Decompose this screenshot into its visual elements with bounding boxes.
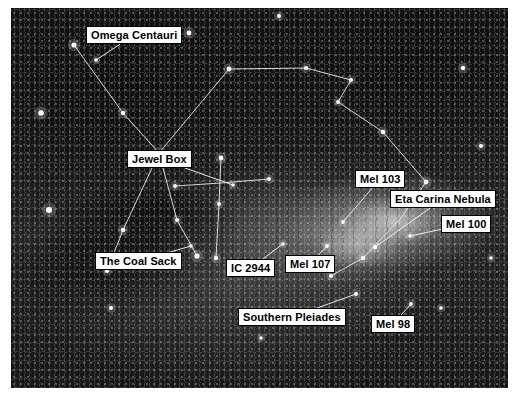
label-southern-pleiades: Southern Pleiades	[238, 308, 346, 326]
label-text: Jewel Box	[132, 153, 187, 165]
label-mel-103: Mel 103	[355, 170, 405, 188]
label-mel-98: Mel 98	[371, 315, 415, 333]
constellation-line-centaurus-leg	[159, 153, 197, 256]
constellation-line-crux-vertical	[216, 158, 221, 258]
label-mel-107: Mel 107	[285, 255, 335, 273]
label-text: Mel 98	[376, 318, 410, 330]
label-jewel-box: Jewel Box	[127, 150, 192, 168]
label-ic-2944: IC 2944	[226, 259, 275, 277]
label-text: The Coal Sack	[100, 255, 177, 267]
label-omega-centauri: Omega Centauri	[86, 26, 182, 44]
label-eta-carina-nebula: Eta Carina Nebula	[390, 190, 496, 208]
label-text: Mel 100	[446, 218, 486, 230]
leader-line-jewel-box	[185, 168, 233, 185]
label-text: Mel 107	[290, 258, 330, 270]
leader-line-eta-carina-nebula	[375, 208, 430, 247]
label-text: Eta Carina Nebula	[395, 193, 491, 205]
leader-line-mel-103	[343, 188, 372, 222]
leader-line-omega-centauri	[96, 44, 120, 60]
label-text: Mel 103	[360, 173, 400, 185]
label-text: Southern Pleiades	[243, 311, 341, 323]
leader-line-mel-107	[319, 246, 328, 255]
leader-line-ic-2944	[263, 244, 283, 259]
leader-line-southern-pleiades	[317, 294, 356, 308]
label-mel-100: Mel 100	[441, 215, 491, 233]
constellation-line-crux-horizontal	[175, 179, 269, 186]
astrophoto-page: Omega CentauriJewel BoxMel 103Eta Carina…	[0, 0, 518, 403]
leader-line-mel-100	[410, 229, 441, 236]
label-the-coal-sack: The Coal Sack	[95, 252, 182, 270]
label-text: IC 2944	[231, 262, 270, 274]
photo-caption	[396, 389, 506, 401]
label-text: Omega Centauri	[91, 29, 177, 41]
leader-line-mel-98	[401, 304, 411, 315]
